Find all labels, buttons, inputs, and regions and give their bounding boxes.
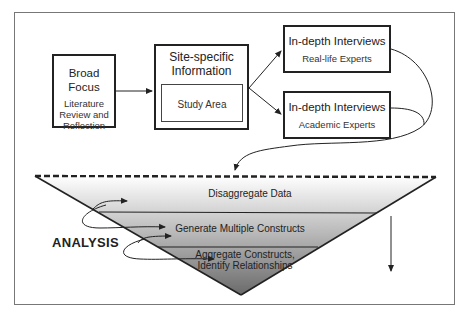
study-area-box: Study Area [161,84,243,122]
site-specific-box: Site-specific Information Study Area [154,44,249,130]
broad-focus-box: Broad Focus Literature Review and Reflec… [52,54,116,128]
interview-academic-subtitle: Academic Experts [285,119,389,130]
funnel-level-1-label: Disaggregate Data [190,188,310,199]
broad-focus-title: Broad Focus [54,66,114,94]
interview-academic-box: In-depth Interviews Academic Experts [283,91,391,139]
funnel-level-3-label-2: Identify Relationships [190,260,300,271]
arrow-site-to-academic [249,88,281,114]
interview-real-subtitle: Real-life Experts [285,53,389,64]
interview-academic-title: In-depth Interviews [285,100,389,114]
study-area-label: Study Area [178,99,227,110]
interview-real-box: In-depth Interviews Real-life Experts [283,25,391,73]
interview-real-title: In-depth Interviews [285,34,389,48]
broad-focus-line-1: Literature [54,98,114,109]
site-specific-title-2: Information [156,64,247,78]
site-specific-title-1: Site-specific [156,50,247,64]
broad-focus-line-2: Review and [54,109,114,120]
funnel-level-2-label: Generate Multiple Constructs [160,223,320,234]
analysis-label: ANALYSIS [52,235,119,250]
curve-academic-join [391,108,424,125]
broad-focus-line-3: Reflection [54,120,114,131]
funnel-level-3-label-1: Aggregate Constructs, [190,249,300,260]
arrow-site-to-real [249,51,281,88]
